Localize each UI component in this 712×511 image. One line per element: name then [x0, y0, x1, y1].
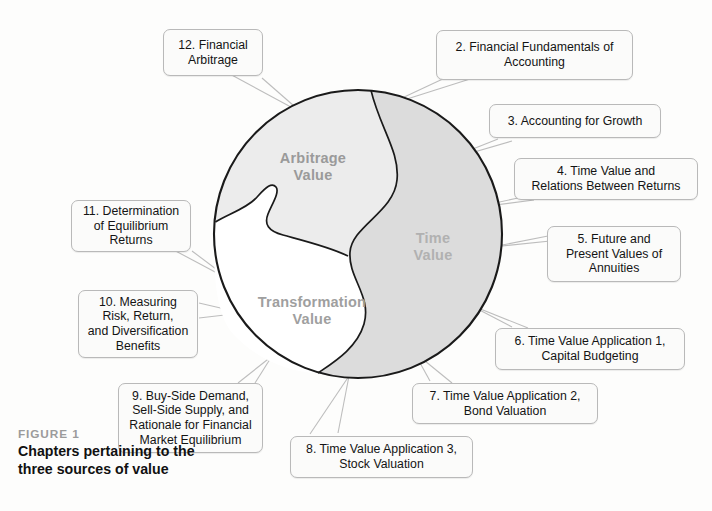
callout-ch8[interactable]: 8. Time Value Application 3,Stock Valuat… [290, 436, 473, 478]
callout-ch7-text: 7. Time Value Application 2,Bond Valuati… [420, 389, 590, 418]
callout-ch11[interactable]: 11. Determinationof EquilibriumReturns [71, 200, 191, 252]
callout-ch4[interactable]: 4. Time Value andRelations Between Retur… [514, 158, 698, 200]
callout-ch5[interactable]: 5. Future andPresent Values ofAnnuities [547, 226, 681, 282]
callout-ch4-text: 4. Time Value andRelations Between Retur… [522, 164, 690, 193]
figure-caption-title: Chapters pertaining to thethree sources … [18, 443, 268, 478]
callout-ch10-text: 10. MeasuringRisk, Return,and Diversific… [86, 295, 190, 353]
callout-ch11-text: 11. Determinationof EquilibriumReturns [79, 204, 183, 248]
callout-ch6-text: 6. Time Value Application 1,Capital Budg… [503, 334, 677, 363]
callout-ch3-text: 3. Accounting for Growth [497, 114, 653, 129]
callout-ch12-text: 12. FinancialArbitrage [171, 38, 255, 67]
value-circle [214, 90, 502, 378]
callout-ch10[interactable]: 10. MeasuringRisk, Return,and Diversific… [78, 290, 198, 358]
callout-ch3[interactable]: 3. Accounting for Growth [489, 104, 661, 138]
figure-container: Arbitrage Value Time Value Transformatio… [0, 0, 712, 511]
callout-ch6[interactable]: 6. Time Value Application 1,Capital Budg… [495, 328, 685, 370]
figure-caption: FIGURE 1 Chapters pertaining to thethree… [18, 427, 268, 478]
callout-ch5-text: 5. Future andPresent Values ofAnnuities [555, 232, 673, 276]
leader-line-ch9-a [238, 356, 272, 383]
callout-ch12[interactable]: 12. FinancialArbitrage [163, 29, 263, 76]
callout-ch2[interactable]: 2. Financial Fundamentals ofAccounting [436, 30, 633, 80]
figure-caption-kicker: FIGURE 1 [18, 427, 268, 442]
callout-ch2-text: 2. Financial Fundamentals ofAccounting [444, 40, 625, 69]
callout-ch7[interactable]: 7. Time Value Application 2,Bond Valuati… [412, 383, 598, 424]
callout-ch8-text: 8. Time Value Application 3,Stock Valuat… [298, 442, 465, 471]
